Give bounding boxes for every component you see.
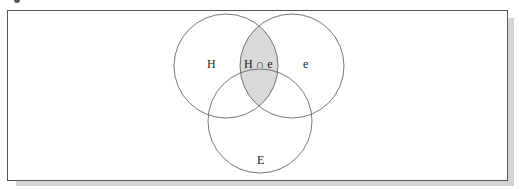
venn-diagram: H e E H ∩ e xyxy=(0,0,524,189)
set-label-e-upper: E xyxy=(257,153,264,167)
set-label-e-lower: e xyxy=(303,57,308,71)
set-label-h: H xyxy=(207,57,216,71)
intersection-label: H ∩ e xyxy=(244,57,273,71)
